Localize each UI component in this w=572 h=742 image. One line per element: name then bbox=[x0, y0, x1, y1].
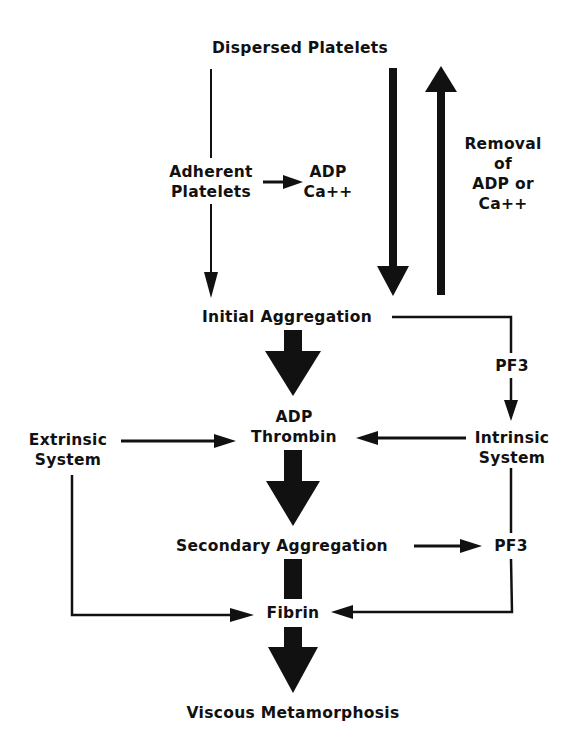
node-extrinsic-system: Extrinsic System bbox=[29, 430, 107, 470]
node-adp-thrombin-line1: ADP bbox=[251, 407, 337, 427]
node-intrinsic-system: Intrinsic System bbox=[475, 428, 550, 468]
node-adherent-platelets-line1: Adherent bbox=[169, 162, 253, 182]
label-removal-line4: Ca++ bbox=[464, 194, 541, 214]
arrow-adherent-to-initial-aggregation bbox=[204, 204, 218, 298]
block-secondary-to-fibrin bbox=[284, 559, 302, 599]
platelet-aggregation-diagram: Dispersed Platelets Adherent Platelets A… bbox=[0, 0, 572, 742]
node-pf3-bottom: PF3 bbox=[494, 536, 528, 556]
arrow-adherent-to-adp-ca bbox=[263, 175, 303, 189]
node-adp-thrombin-line2: Thrombin bbox=[251, 427, 337, 447]
node-adp-ca-line1: ADP bbox=[303, 162, 352, 182]
label-removal-of-adp-or-ca: Removal of ADP or Ca++ bbox=[464, 134, 541, 214]
node-adp-thrombin: ADP Thrombin bbox=[251, 407, 337, 447]
node-initial-aggregation: Initial Aggregation bbox=[202, 307, 372, 327]
label-removal-line3: ADP or bbox=[464, 174, 541, 194]
node-adp-ca: ADP Ca++ bbox=[303, 162, 352, 202]
node-adherent-platelets-line2: Platelets bbox=[169, 182, 253, 202]
diagram-connectors bbox=[0, 0, 572, 742]
node-extrinsic-line1: Extrinsic bbox=[29, 430, 107, 450]
node-adp-ca-line2: Ca++ bbox=[303, 182, 352, 202]
block-arrow-fibrin-to-viscous bbox=[268, 627, 318, 693]
arrow-dispersed-to-initial-aggregation bbox=[377, 68, 409, 296]
node-adherent-platelets: Adherent Platelets bbox=[169, 162, 253, 202]
label-removal-line1: Removal bbox=[464, 134, 541, 154]
label-removal-line2: of bbox=[464, 154, 541, 174]
label-pf3-top: PF3 bbox=[495, 356, 529, 376]
arrow-secondary-to-pf3 bbox=[414, 539, 482, 553]
node-dispersed-platelets: Dispersed Platelets bbox=[212, 38, 388, 58]
arrow-extrinsic-to-thrombin bbox=[121, 434, 236, 448]
arrow-intrinsic-to-thrombin bbox=[356, 431, 466, 445]
arrow-removal-up bbox=[425, 66, 457, 295]
node-intrinsic-line1: Intrinsic bbox=[475, 428, 550, 448]
node-extrinsic-line2: System bbox=[29, 450, 107, 470]
node-intrinsic-line2: System bbox=[475, 448, 550, 468]
node-secondary-aggregation: Secondary Aggregation bbox=[176, 536, 388, 556]
node-viscous-metamorphosis: Viscous Metamorphosis bbox=[187, 703, 400, 723]
block-arrow-thrombin-to-secondary bbox=[266, 450, 320, 526]
block-arrow-initial-to-thrombin bbox=[265, 330, 321, 396]
node-fibrin: Fibrin bbox=[267, 603, 320, 623]
